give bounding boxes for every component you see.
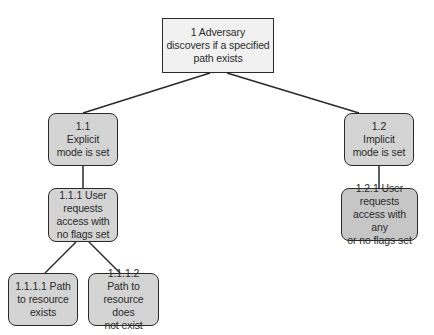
node-1-1-explicit-mode: 1.1 Explicit mode is set — [48, 113, 118, 166]
node-1-1-1-2-path-not-exist: 1.1.1.2 Path to resource does not exist — [88, 273, 159, 326]
node-label: 1.2 Implicit mode is set — [353, 120, 406, 159]
node-1-1-1-user-requests-no-flags: 1.1.1 User requests access with no flags… — [48, 188, 118, 242]
node-label: 1 Adversary discovers if a specified pat… — [166, 26, 269, 65]
node-1-2-implicit-mode: 1.2 Implicit mode is set — [344, 113, 414, 166]
node-1-2-1-user-requests-any-flags: 1.2.1 User requests access with any or n… — [341, 188, 418, 241]
edge-1-to-1.1 — [83, 73, 210, 113]
node-label: 1.1 Explicit mode is set — [57, 120, 110, 159]
node-label: 1.1.1.1 Path to resource exists — [15, 280, 70, 319]
edge-1-to-1.2 — [227, 73, 359, 113]
node-label: 1.1.1 User requests access with no flags… — [56, 189, 109, 241]
node-1-adversary-discovers-path: 1 Adversary discovers if a specified pat… — [162, 18, 274, 73]
node-1-1-1-1-path-exists: 1.1.1.1 Path to resource exists — [8, 273, 78, 326]
attack-tree-diagram: 1 Adversary discovers if a specified pat… — [0, 0, 434, 335]
node-label: 1.1.1.2 Path to resource does not exist — [91, 267, 156, 332]
node-label: 1.2.1 User requests access with any or n… — [344, 182, 415, 247]
edge-1.1.1-to-1.1.1.1 — [45, 242, 76, 273]
